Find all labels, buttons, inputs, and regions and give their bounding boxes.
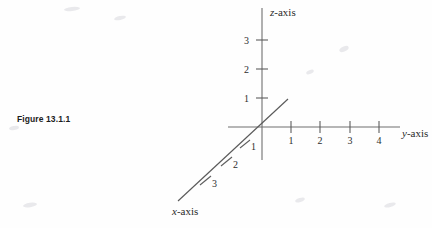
y-tick-label-3: 3 bbox=[348, 135, 353, 146]
x-tick-1 bbox=[240, 140, 250, 148]
z-tick-label-2: 2 bbox=[244, 64, 249, 75]
x-tick-2 bbox=[221, 157, 232, 166]
x-tick-label-2: 2 bbox=[233, 159, 238, 170]
z-tick-label-3: 3 bbox=[244, 35, 249, 46]
y-tick-label-2: 2 bbox=[318, 135, 323, 146]
y-tick-label-1: 1 bbox=[289, 135, 294, 146]
x-tick-label-3: 3 bbox=[212, 178, 217, 189]
x-axis-ticks bbox=[200, 140, 250, 185]
y-axis-label-suffix: -axis bbox=[407, 127, 428, 139]
x-tick-3 bbox=[200, 176, 211, 185]
figure-page: Figure 13.1.1 1 2 3 bbox=[0, 0, 432, 228]
coordinate-axes-diagram: 1 2 3 1 2 3 4 1 2 3 z-axis y-axis bbox=[0, 0, 432, 228]
z-axis-label: z-axis bbox=[269, 6, 296, 18]
z-tick-label-1: 1 bbox=[244, 93, 249, 104]
x-axis-label: x-axis bbox=[171, 205, 198, 217]
z-axis-label-suffix: -axis bbox=[274, 6, 295, 18]
y-axis-label: y-axis bbox=[401, 127, 428, 139]
y-tick-label-4: 4 bbox=[377, 135, 382, 146]
x-axis-line bbox=[178, 99, 288, 201]
x-tick-label-1: 1 bbox=[251, 141, 256, 152]
x-axis-label-suffix: -axis bbox=[177, 205, 198, 217]
